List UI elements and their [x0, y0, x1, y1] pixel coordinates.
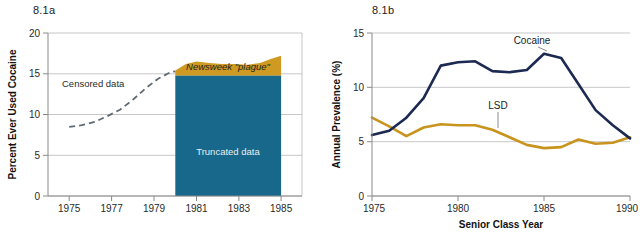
chart-b-x-axis: 1975 1980 1985 1990	[363, 196, 639, 214]
series-label-lsd: LSD	[488, 100, 507, 111]
chart-b-xtick-1985: 1985	[533, 203, 556, 214]
chart-a-ytick-15: 15	[29, 68, 41, 79]
chart-b-canvas: Cocaine LSD 0 5 10 15 1975 1980	[320, 0, 641, 237]
chart-b-ytick-5: 5	[358, 136, 364, 147]
chart-a-canvas: 0 5 10 15 20 1975 1977 1979 1981 1983 19…	[0, 0, 320, 237]
chart-b-xtick-1980: 1980	[447, 203, 470, 214]
chart-b-x-axis-title: Senior Class Year	[459, 219, 543, 230]
chart-b-ytick-15: 15	[353, 28, 365, 39]
chart-b-y-axis: 0 5 10 15	[353, 28, 372, 202]
chart-a-xtick-1975: 1975	[58, 203, 81, 214]
chart-a-x-axis: 1975 1977 1979 1981 1983 1985	[48, 196, 302, 214]
series-line-cocaine	[372, 54, 630, 139]
chart-b-ytick-10: 10	[353, 82, 365, 93]
chart-a-xtick-1977: 1977	[100, 203, 123, 214]
chart-a-xtick-1981: 1981	[185, 203, 208, 214]
series-line-lsd	[372, 118, 630, 148]
chart-b-ytick-0: 0	[358, 191, 364, 202]
chart-a-y-axis: 0 5 10 15 20	[29, 28, 48, 202]
chart-b-y-axis-title: Annual Prevalence (%)	[331, 61, 342, 169]
chart-a-ytick-20: 20	[29, 28, 41, 39]
series-label-lsd-group: LSD	[488, 100, 507, 128]
series-label-cocaine-group: Cocaine	[514, 35, 551, 51]
chart-a-xtick-1979: 1979	[143, 203, 166, 214]
panel-a-label: 8.1a	[33, 4, 55, 16]
chart-a-xtick-1985: 1985	[270, 203, 293, 214]
chart-b-xtick-1990: 1990	[616, 203, 639, 214]
series-label-cocaine: Cocaine	[514, 35, 551, 46]
figure-panel-b: 8.1b Cocaine LSD 0 5	[320, 0, 641, 237]
chart-a-ytick-0: 0	[34, 191, 40, 202]
annotation-newsweek-plague: Newsweek "plague"	[186, 61, 270, 72]
chart-a-ytick-5: 5	[34, 150, 40, 161]
truncated-data-block	[175, 75, 281, 196]
chart-a-xtick-1983: 1983	[228, 203, 251, 214]
chart-b-xtick-1975: 1975	[363, 203, 386, 214]
panel-b-label: 8.1b	[372, 4, 394, 16]
chart-a-y-axis-title: Percent Ever Used Cocaine	[7, 49, 18, 179]
annotation-truncated-data: Truncated data	[196, 146, 260, 157]
chart-a-ytick-10: 10	[29, 109, 41, 120]
figure-panel-a: 8.1a 0 5 10 15 20	[0, 0, 320, 237]
annotation-censored-data: Censored data	[62, 78, 125, 89]
